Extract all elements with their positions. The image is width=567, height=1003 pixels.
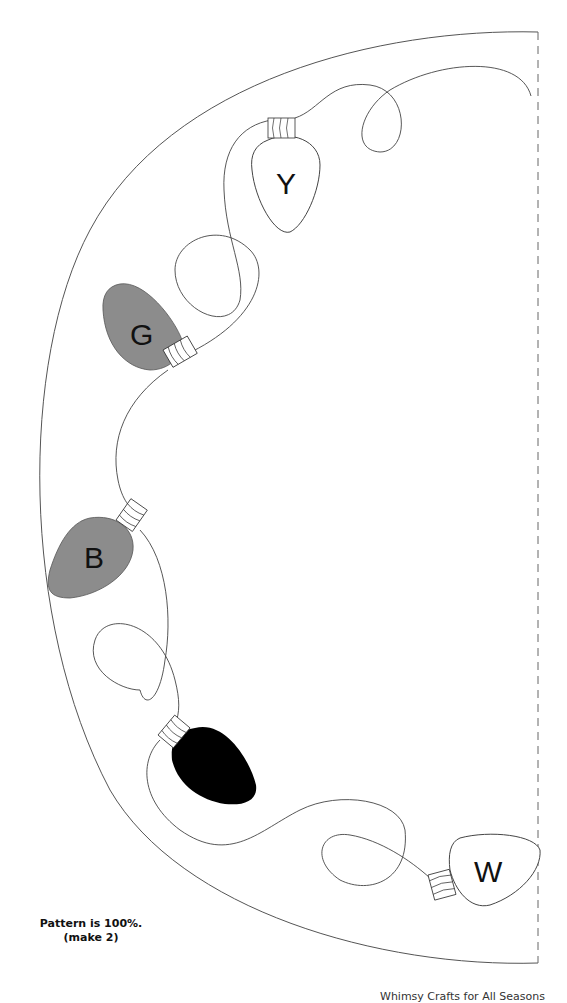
svg-text:B: B xyxy=(84,541,104,574)
svg-text:G: G xyxy=(130,318,153,351)
svg-text:Y: Y xyxy=(276,167,296,200)
svg-text:W: W xyxy=(474,855,503,888)
bulb-g: G xyxy=(103,284,197,370)
bulb-b: B xyxy=(48,499,147,598)
note-line-1: Pattern is 100%. xyxy=(36,917,146,931)
bulb-w: W xyxy=(428,834,540,906)
note-line-2: (make 2) xyxy=(36,931,146,945)
bulb-y: Y xyxy=(252,118,320,232)
pattern-note: Pattern is 100%. (make 2) xyxy=(36,917,146,945)
bulb-black xyxy=(158,715,256,804)
footer-credit: Whimsy Crafts for All Seasons xyxy=(380,990,545,1003)
